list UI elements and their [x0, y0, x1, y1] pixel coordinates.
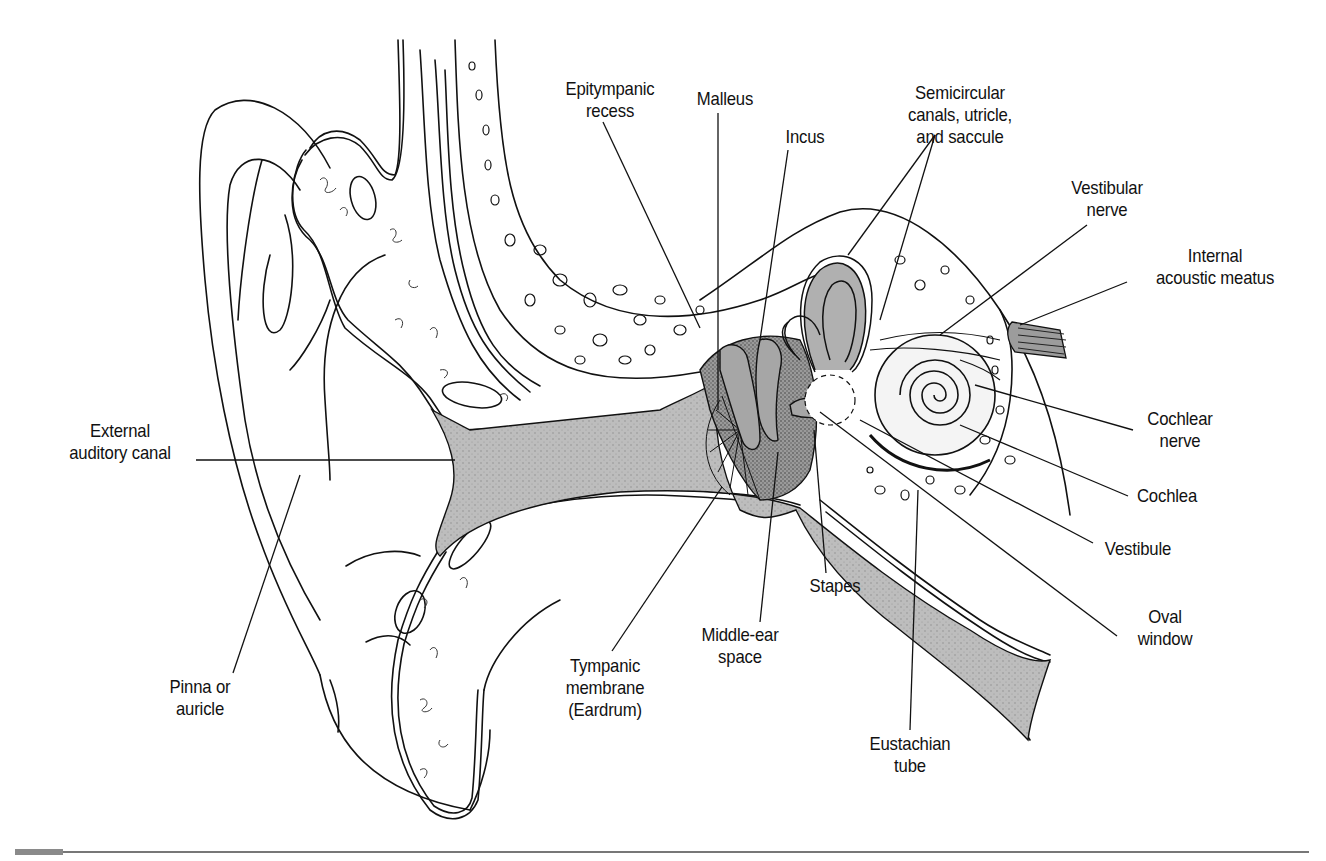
label-line: Pinna or: [156, 676, 244, 698]
label-line: Cochlea: [1127, 485, 1206, 507]
label-line: space: [692, 646, 789, 668]
label-epitympanic-recess: Epitympanic recess: [548, 78, 671, 122]
label-line: Eustachian: [857, 733, 963, 755]
label-line: Oval: [1125, 606, 1204, 628]
label-line: Cochlear: [1136, 408, 1224, 430]
label-line: Internal: [1140, 245, 1290, 267]
label-line: membrane: [552, 677, 658, 699]
label-line: (Eardrum): [552, 699, 658, 721]
label-line: canals, utricle,: [890, 104, 1031, 126]
label-external-auditory-canal: External auditory canal: [54, 420, 186, 464]
label-line: window: [1125, 628, 1204, 650]
label-line: Vestibule: [1094, 538, 1182, 560]
label-vestibular-nerve: Vestibular nerve: [1059, 177, 1156, 221]
label-vestibule: Vestibule: [1094, 538, 1182, 560]
label-line: Middle-ear: [692, 624, 789, 646]
label-middle-ear-space: Middle-ear space: [692, 624, 789, 668]
label-internal-acoustic-meatus: Internal acoustic meatus: [1140, 245, 1290, 289]
label-line: acoustic meatus: [1140, 267, 1290, 289]
label-tympanic-membrane: Tympanic membrane (Eardrum): [552, 655, 658, 721]
label-line: nerve: [1059, 199, 1156, 221]
ear-anatomy-diagram: [0, 0, 1326, 861]
label-line: auricle: [156, 698, 244, 720]
label-line: and saccule: [890, 126, 1031, 148]
label-malleus: Malleus: [685, 88, 764, 110]
label-line: Tympanic: [552, 655, 658, 677]
label-incus: Incus: [774, 126, 836, 148]
label-eustachian-tube: Eustachian tube: [857, 733, 963, 777]
label-line: nerve: [1136, 430, 1224, 452]
label-line: tube: [857, 755, 963, 777]
label-oval-window: Oval window: [1125, 606, 1204, 650]
label-cochlea: Cochlea: [1127, 485, 1206, 507]
label-line: Epitympanic: [548, 78, 671, 100]
label-line: Semicircular: [890, 82, 1031, 104]
label-line: Stapes: [800, 575, 870, 597]
footer-rule: [63, 851, 1309, 853]
label-line: External: [54, 420, 186, 442]
label-line: Incus: [774, 126, 836, 148]
label-line: Vestibular: [1059, 177, 1156, 199]
label-stapes: Stapes: [800, 575, 870, 597]
footer-accent-bar: [15, 849, 63, 855]
label-line: auditory canal: [54, 442, 186, 464]
label-pinna-auricle: Pinna or auricle: [156, 676, 244, 720]
pinna-outline: [200, 100, 330, 675]
label-cochlear-nerve: Cochlear nerve: [1136, 408, 1224, 452]
label-line: recess: [548, 100, 671, 122]
label-line: Malleus: [685, 88, 764, 110]
label-semicircular-canals: Semicircular canals, utricle, and saccul…: [890, 82, 1031, 148]
